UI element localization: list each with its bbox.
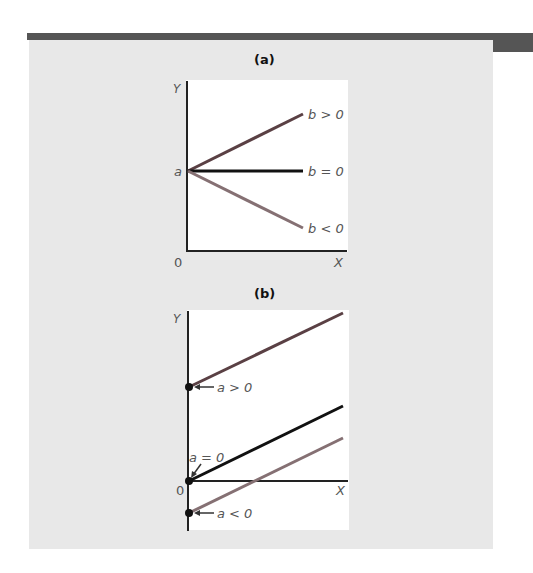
intercept-dot-negative [185,509,193,517]
diagram-canvas: Y a 0 X b > 0 b = 0 b < 0 Y 0 [0,0,533,573]
intercept-dot-zero [185,477,193,485]
label-a-zero: a = 0 [189,450,224,465]
label-b-zero: b = 0 [308,164,344,179]
panel-a-x-label: X [333,255,344,270]
label-b-positive: b > 0 [308,107,344,122]
panel-a-plot: Y a 0 X b > 0 b = 0 b < 0 [173,80,348,270]
panel-b-plot: Y 0 X a > 0 a = 0 a < 0 [173,310,349,531]
panel-a-y-label: Y [173,82,182,96]
intercept-dot-positive [185,383,193,391]
panel-b-x-label: X [335,483,346,498]
label-b-negative: b < 0 [308,221,344,236]
panel-b-y-label: Y [173,312,182,326]
label-a-negative: a < 0 [217,506,252,521]
panel-a-intercept-label: a [174,164,182,179]
panel-b-plot-bg [187,310,349,530]
panel-b-origin-label: 0 [176,483,184,498]
panel-a-origin-label: 0 [174,255,182,270]
label-a-positive: a > 0 [217,380,252,395]
